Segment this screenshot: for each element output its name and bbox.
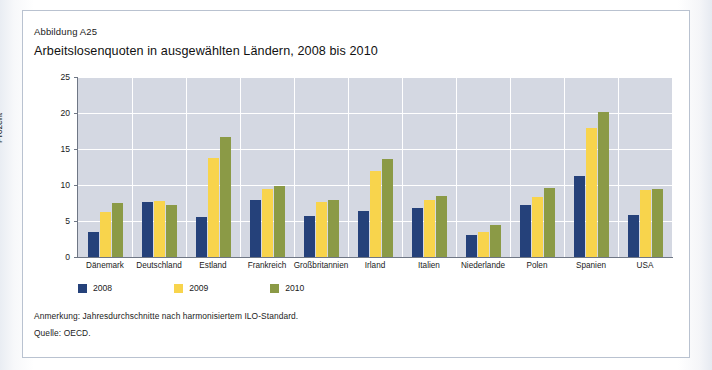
x-tick-label: USA	[637, 261, 654, 270]
x-tick-label: Irland	[365, 261, 385, 270]
bar-group	[618, 77, 672, 257]
legend-label: 2010	[285, 283, 304, 293]
legend-item: 2008	[78, 283, 112, 293]
bar-group	[348, 77, 402, 257]
bar	[112, 203, 123, 257]
x-tick-label: Deutschland	[136, 261, 182, 270]
source-note: Quelle: OECD.	[34, 328, 634, 338]
bar	[490, 225, 501, 257]
bar	[382, 159, 393, 257]
chart-legend: 200820092010	[78, 283, 366, 293]
bar-group	[294, 77, 348, 257]
bar	[574, 176, 585, 257]
bar	[628, 215, 639, 257]
bar	[262, 189, 273, 257]
bar	[166, 205, 177, 257]
bar	[544, 188, 555, 257]
x-tick-label: Estland	[199, 261, 226, 270]
bar-group	[402, 77, 456, 257]
legend-label: 2008	[93, 283, 112, 293]
bar	[358, 211, 369, 257]
bar	[478, 232, 489, 257]
x-tick-label: Großbritannien	[294, 261, 349, 270]
bar	[196, 217, 207, 257]
legend-swatch	[174, 284, 183, 293]
bar	[208, 158, 219, 257]
bar-group	[78, 77, 132, 257]
annotation-note: Anmerkung: Jahresdurchschnitte nach harm…	[34, 311, 634, 321]
x-tick-label: Frankreich	[248, 261, 287, 270]
bar	[100, 212, 111, 257]
legend-swatch	[270, 284, 279, 293]
bar-group	[456, 77, 510, 257]
legend-item: 2009	[174, 283, 208, 293]
figure-title: Arbeitslosenquoten in ausgewählten Lände…	[34, 44, 378, 58]
bar	[466, 235, 477, 257]
bar-group	[132, 77, 186, 257]
bar	[220, 137, 231, 257]
y-tick-label: 20	[44, 108, 70, 118]
figure-number: Abbildung A25	[34, 26, 97, 37]
bar	[304, 216, 315, 257]
figure-notes: Anmerkung: Jahresdurchschnitte nach harm…	[34, 311, 634, 345]
legend-item: 2010	[270, 283, 304, 293]
plot-wrapper	[78, 77, 672, 257]
y-tick-label: 0	[44, 252, 70, 262]
bar	[412, 208, 423, 257]
bar	[598, 112, 609, 257]
bar	[154, 201, 165, 257]
x-tick-label: Niederlande	[461, 261, 505, 270]
y-tick-label: 25	[44, 72, 70, 82]
bar	[370, 171, 381, 257]
bar-group	[240, 77, 294, 257]
bar	[520, 205, 531, 257]
figure-container: Abbildung A25 Arbeitslosenquoten in ausg…	[0, 0, 712, 370]
legend-swatch	[78, 284, 87, 293]
bar	[142, 202, 153, 257]
y-tick-label: 5	[44, 216, 70, 226]
y-axis-title: Prozent	[0, 113, 4, 143]
x-axis-line	[78, 257, 673, 258]
bar	[652, 189, 663, 257]
bar-group	[186, 77, 240, 257]
y-tick-label: 10	[44, 180, 70, 190]
x-axis-tick-labels: DänemarkDeutschlandEstlandFrankreichGroß…	[78, 261, 672, 275]
legend-label: 2009	[189, 283, 208, 293]
bar	[424, 200, 435, 257]
plot-area	[78, 77, 672, 257]
bar	[274, 186, 285, 257]
bar	[586, 128, 597, 257]
bar	[88, 232, 99, 257]
bar	[640, 190, 651, 257]
x-tick-label: Italien	[418, 261, 440, 270]
bar	[532, 197, 543, 257]
x-tick-label: Spanien	[576, 261, 606, 270]
bar	[436, 196, 447, 257]
x-tick-label: Dänemark	[86, 261, 124, 270]
bar	[328, 200, 339, 257]
bar-group	[564, 77, 618, 257]
y-tick-label: 15	[44, 144, 70, 154]
bar	[316, 202, 327, 257]
bar-group	[510, 77, 564, 257]
y-axis-tick-labels: 0510152025	[40, 77, 70, 257]
x-tick-label: Polen	[527, 261, 548, 270]
bar	[250, 200, 261, 257]
